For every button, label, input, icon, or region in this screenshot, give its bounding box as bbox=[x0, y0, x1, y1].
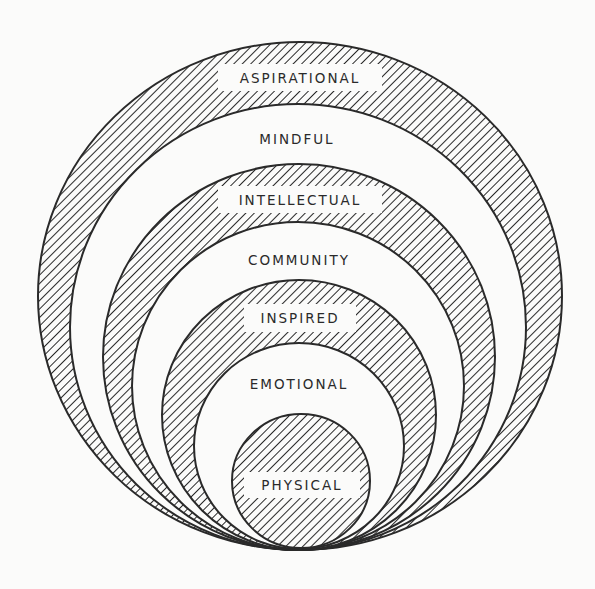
label-intellectual-group: INTELLECTUAL bbox=[218, 186, 382, 213]
label-community-group: COMMUNITY bbox=[248, 252, 350, 268]
label-aspirational-group: ASPIRATIONAL bbox=[218, 64, 382, 91]
label-physical-group: PHYSICAL bbox=[244, 472, 360, 498]
label-physical: PHYSICAL bbox=[261, 477, 342, 493]
label-emotional-group: EMOTIONAL bbox=[250, 376, 349, 392]
label-inspired: INSPIRED bbox=[260, 310, 339, 326]
label-intellectual: INTELLECTUAL bbox=[239, 192, 362, 208]
label-emotional: EMOTIONAL bbox=[250, 376, 349, 392]
label-mindful-group: MINDFUL bbox=[259, 131, 334, 147]
nested-circles-diagram: ASPIRATIONAL MINDFUL INTELLECTUAL COMMUN… bbox=[0, 0, 595, 589]
label-mindful: MINDFUL bbox=[259, 131, 334, 147]
label-community: COMMUNITY bbox=[248, 252, 350, 268]
label-inspired-group: INSPIRED bbox=[244, 304, 356, 332]
label-aspirational: ASPIRATIONAL bbox=[240, 70, 361, 86]
